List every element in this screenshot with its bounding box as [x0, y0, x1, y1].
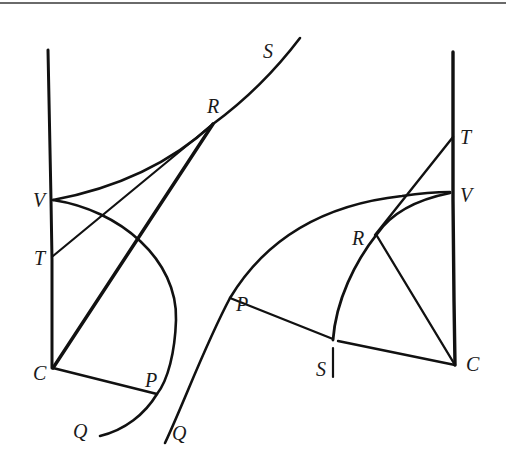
left-line-C-P: [53, 368, 157, 394]
right-label-S: S: [316, 358, 326, 380]
right-curve-Q-P-V: [165, 192, 450, 443]
right-vertical-axis: [453, 52, 455, 365]
right-label-V: V: [460, 184, 475, 206]
left-label-V: V: [33, 189, 48, 211]
right-label-C: C: [466, 353, 480, 375]
right-line-R-T: [375, 137, 453, 235]
left-line-R-C: [53, 124, 213, 368]
left-figure: V T C R S P Q: [33, 38, 300, 442]
right-label-P: P: [235, 293, 248, 315]
left-label-C: C: [33, 362, 47, 384]
left-label-S: S: [263, 40, 273, 62]
right-line-R-C: [377, 236, 455, 365]
right-label-R: R: [351, 227, 364, 249]
right-label-Q: Q: [172, 422, 187, 444]
left-arc-V-P-Q: [53, 200, 176, 436]
left-label-R: R: [206, 95, 219, 117]
left-label-T: T: [34, 247, 47, 269]
right-label-T: T: [460, 126, 473, 148]
left-vertical-axis: [48, 50, 52, 368]
diagram: V T C R S P Q T V R P S C Q: [0, 0, 506, 468]
left-label-P: P: [144, 369, 157, 391]
left-label-Q: Q: [73, 420, 88, 442]
left-curve-S-R: [213, 38, 300, 124]
